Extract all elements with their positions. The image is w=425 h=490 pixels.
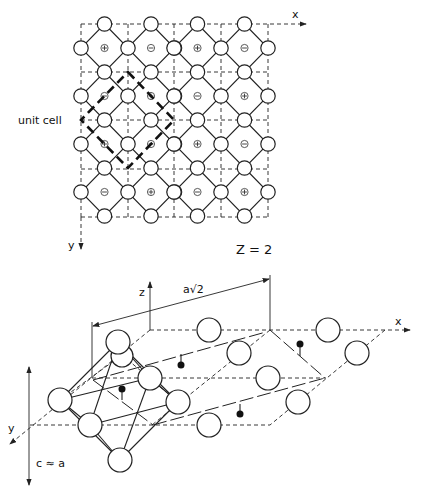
atom-circle	[167, 89, 181, 103]
dipole-icon	[119, 386, 126, 401]
atom-circle	[261, 41, 275, 55]
atom-circle	[237, 209, 251, 223]
c-label: c ≈ a	[36, 457, 65, 470]
atom-circle	[167, 41, 181, 55]
plus-sign-icon	[241, 92, 248, 99]
atom-circle	[237, 17, 251, 31]
atom-circle	[214, 137, 228, 151]
atoms-3d	[48, 318, 369, 472]
x-axis-label-3d: x	[395, 315, 402, 328]
atom-circle	[190, 209, 204, 223]
plus-sign-icon	[194, 44, 201, 51]
figure-canvas: x y unit cell Z = 2 a√2 z x	[0, 0, 425, 490]
top-projection-diagram: x y unit cell Z = 2	[18, 8, 306, 257]
formula-units-label: Z = 2	[236, 242, 272, 257]
atom-circle	[97, 161, 111, 175]
atom-circle	[144, 17, 158, 31]
atom-circle	[167, 137, 181, 151]
atom-circle	[121, 137, 135, 151]
minus-sign-icon	[101, 188, 108, 195]
atom-circle	[144, 161, 158, 175]
dipole-icon	[178, 354, 185, 369]
minus-sign-icon	[194, 188, 201, 195]
atom-circle	[190, 17, 204, 31]
atom-circle	[74, 137, 88, 151]
atom-circle	[97, 65, 111, 79]
dimension-line	[93, 279, 269, 326]
atom-circle	[121, 185, 135, 199]
atom-circle	[74, 89, 88, 103]
atom-circle	[237, 161, 251, 175]
atom-circle	[121, 41, 135, 55]
atom-circle	[214, 185, 228, 199]
atom-circle	[144, 65, 158, 79]
atom-circle	[261, 185, 275, 199]
minus-sign-icon	[147, 44, 154, 51]
atom-circle	[261, 137, 275, 151]
atom-circle	[144, 113, 158, 127]
atom-circle	[144, 209, 158, 223]
perspective-diagram: a√2 z x y c ≈ a	[8, 275, 410, 485]
minus-sign-icon	[241, 44, 248, 51]
dimension-label: a√2	[183, 283, 204, 296]
atom-circle	[190, 161, 204, 175]
atom-circle	[237, 65, 251, 79]
minus-sign-icon	[241, 140, 248, 147]
atom-circle	[97, 209, 111, 223]
atom-circle	[214, 41, 228, 55]
plus-sign-icon	[241, 188, 248, 195]
z-axis-label: z	[139, 286, 145, 299]
atom-circle	[121, 89, 135, 103]
y-axis-label: y	[68, 239, 75, 252]
atom-circle	[97, 113, 111, 127]
atom-circle	[74, 185, 88, 199]
plus-sign-icon	[194, 140, 201, 147]
plus-sign-icon	[147, 188, 154, 195]
unit-cell-label: unit cell	[18, 114, 62, 127]
y-axis-label-3d: y	[8, 422, 15, 435]
dipole-icon	[237, 404, 244, 418]
atom-circle	[190, 65, 204, 79]
atom-circle	[261, 89, 275, 103]
atom-circle	[214, 89, 228, 103]
atom-circle	[74, 41, 88, 55]
atom-circle	[237, 113, 251, 127]
plus-sign-icon	[101, 44, 108, 51]
perovskite-structure-figure: x y unit cell Z = 2 a√2 z x	[0, 0, 425, 490]
x-axis-label: x	[292, 8, 299, 21]
minus-sign-icon	[194, 92, 201, 99]
atom-circle	[190, 113, 204, 127]
atom-circle	[167, 185, 181, 199]
atom-circle	[97, 17, 111, 31]
